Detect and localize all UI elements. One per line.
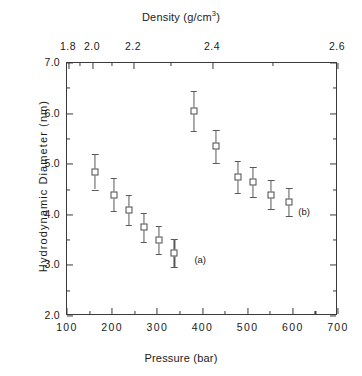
y-axis-tick-label: 2.0 xyxy=(34,309,60,321)
y-axis-tick-label: 3.0 xyxy=(34,258,60,270)
plot-annotation: (a) xyxy=(194,254,206,265)
y-axis-tick-label: 5.0 xyxy=(34,157,60,169)
chart-figure: Density (g/cm3) Hydrodynamic Diameter (n… xyxy=(0,0,362,376)
plot-annotation: (b) xyxy=(298,206,310,217)
annotations-layer: (a)(b) xyxy=(67,63,336,314)
y-axis-tick-label: 4.0 xyxy=(34,208,60,220)
y-axis-tick-label: 6.0 xyxy=(34,107,60,119)
plot-area: (a)(b) xyxy=(66,62,337,315)
y-axis-tick-label: 7.0 xyxy=(34,56,60,68)
